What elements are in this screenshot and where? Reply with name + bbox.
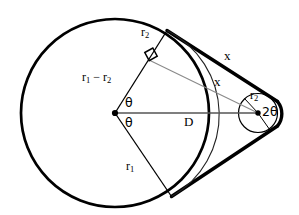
label-r2-small-circle: r2 [250, 89, 258, 103]
label-theta-upper: θ [125, 97, 133, 110]
label-x-outer: x [224, 49, 231, 62]
label-r1-lower: r1 [126, 160, 134, 174]
radius-upper-line [115, 31, 167, 114]
label-r1-minus-r2: r1 − r2 [82, 71, 111, 85]
label-two-theta: 2θ [262, 106, 278, 119]
label-theta-lower: θ [125, 117, 133, 130]
label-x-inner: x [214, 75, 221, 88]
diagram-canvas [0, 0, 299, 215]
large-circle-center-dot [112, 110, 118, 116]
belt-wrap-arc [278, 102, 282, 127]
inner-x-line [150, 61, 258, 114]
label-r2-top: r2 [141, 26, 149, 40]
radius-lower-line [115, 113, 172, 197]
label-D: D [184, 115, 193, 128]
small-circle-center-dot [255, 110, 260, 115]
geometry-diagram: r2 r1 − r2 θ θ r1 D x x r2 2θ [0, 0, 299, 215]
